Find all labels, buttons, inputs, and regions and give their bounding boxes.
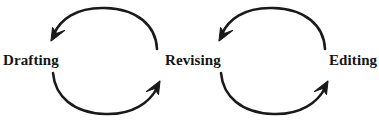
stage-label-revising: Revising <box>165 53 221 68</box>
top-arc-path <box>222 8 325 49</box>
cycle-drafting-revising <box>51 8 160 114</box>
top-arc-path <box>54 8 157 49</box>
stage-label-drafting: Drafting <box>3 53 59 68</box>
bottom-arc-path <box>221 73 325 114</box>
stage-label-editing: Editing <box>329 53 377 68</box>
cycle-revising-editing <box>219 8 328 114</box>
cycle-diagram: Drafting Revising Editing <box>0 0 379 126</box>
bottom-arc-path <box>53 73 157 114</box>
